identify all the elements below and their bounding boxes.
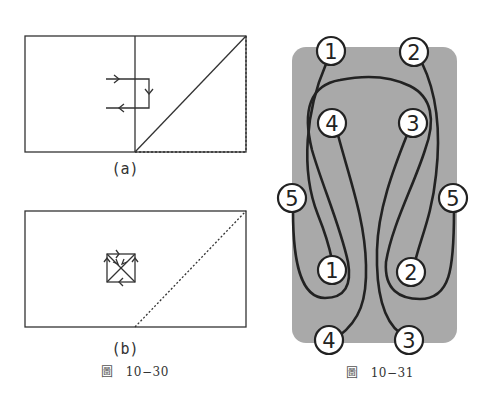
figure-10-31-caption: 圖10−31 bbox=[340, 363, 420, 380]
label-top-left: 1 bbox=[324, 40, 337, 64]
label-top-right: 2 bbox=[407, 41, 420, 65]
label-bottom-left: 4 bbox=[322, 329, 335, 353]
figure-10-31: 1 2 4 3 5 5 1 2 4 3 bbox=[0, 0, 490, 395]
label-upper-right: 3 bbox=[406, 112, 419, 136]
label-upper-left: 4 bbox=[325, 112, 338, 136]
label-side-left: 5 bbox=[285, 187, 298, 211]
label-lower-right: 2 bbox=[404, 261, 417, 285]
label-side-right: 5 bbox=[446, 187, 459, 211]
label-bottom-right: 3 bbox=[402, 329, 415, 353]
caption-char: 圖 bbox=[346, 366, 359, 380]
label-lower-left: 1 bbox=[325, 259, 338, 283]
caption-number: 10−31 bbox=[371, 366, 414, 380]
